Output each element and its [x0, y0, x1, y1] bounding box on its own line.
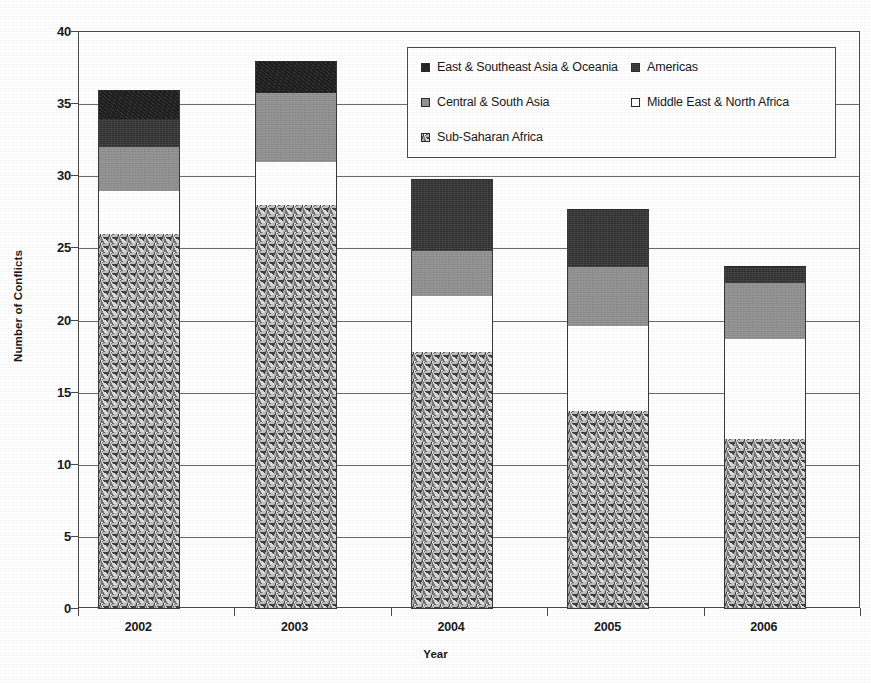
y-axis-tick-mark [71, 247, 78, 248]
y-axis-tick-label: 35 [37, 97, 71, 110]
bar-segment[interactable] [567, 209, 649, 267]
x-axis-tick-label: 2005 [562, 620, 652, 634]
y-axis: Number of Conflicts 0510152025303540 [0, 0, 71, 683]
bar-segment[interactable] [98, 191, 180, 234]
legend-item[interactable]: Middle East & North Africa [631, 95, 789, 109]
bar-segment[interactable] [411, 251, 493, 296]
legend-item-label: Americas [647, 60, 698, 74]
legend-item[interactable]: East & Southeast Asia & Oceania [421, 60, 618, 74]
y-axis-tick-mark [71, 175, 78, 176]
bar-segment[interactable] [567, 326, 649, 411]
legend-item-label: Middle East & North Africa [647, 95, 789, 109]
y-axis-tick-label: 25 [37, 241, 71, 254]
bar-stack[interactable] [98, 32, 180, 609]
bar-segment[interactable] [255, 205, 337, 609]
bar-segment[interactable] [411, 296, 493, 352]
legend-item-label: Central & South Asia [437, 95, 549, 109]
bar-segment[interactable] [567, 411, 649, 609]
x-axis-tick-label: 2003 [250, 620, 340, 634]
y-axis-tick-mark [71, 608, 78, 609]
bar-segment[interactable] [724, 283, 806, 339]
y-axis-tick-label: 10 [37, 457, 71, 470]
legend-swatch-icon [421, 63, 430, 72]
y-axis-tick-label: 30 [37, 169, 71, 182]
legend-item[interactable]: Central & South Asia [421, 95, 549, 109]
legend-item[interactable]: Sub-Saharan Africa [421, 130, 543, 144]
bar-segment[interactable] [98, 147, 180, 190]
y-axis-tick-mark [71, 464, 78, 465]
y-axis-tick-mark [71, 31, 78, 32]
y-axis-tick-label: 40 [37, 25, 71, 38]
legend-item-label: Sub-Saharan Africa [437, 130, 543, 144]
bar-segment[interactable] [411, 352, 493, 609]
legend-swatch-icon [631, 63, 640, 72]
x-axis-tick-label: 2004 [406, 620, 496, 634]
x-axis-tick-mark [234, 608, 235, 616]
y-axis-tick-mark [71, 392, 78, 393]
y-axis-title: Number of Conflicts [12, 226, 24, 386]
legend-swatch-icon [421, 133, 430, 142]
y-axis-tick-mark [71, 320, 78, 321]
stacked-bar-chart: Number of Conflicts 0510152025303540 200… [0, 0, 871, 683]
bar-segment[interactable] [724, 339, 806, 439]
bar-segment[interactable] [255, 93, 337, 162]
y-axis-tick-label: 0 [37, 602, 71, 615]
x-axis-tick-mark [704, 608, 705, 616]
x-axis-tick-mark [391, 608, 392, 616]
legend-swatch-icon [421, 98, 430, 107]
legend-item[interactable]: Americas [631, 60, 698, 74]
y-axis-tick-mark [71, 536, 78, 537]
x-axis-title: Year [0, 648, 871, 660]
bar-segment[interactable] [255, 162, 337, 205]
bar-segment[interactable] [567, 267, 649, 326]
x-axis-tick-label: 2006 [719, 620, 809, 634]
x-axis-tick-label: 2002 [93, 620, 183, 634]
figure-caption [56, 677, 756, 683]
bar-segment[interactable] [255, 61, 337, 93]
y-axis-tick-label: 15 [37, 385, 71, 398]
y-axis-tick-mark [71, 103, 78, 104]
bar-segment[interactable] [98, 90, 180, 119]
bar-segment[interactable] [411, 179, 493, 251]
x-axis-tick-mark [860, 608, 861, 616]
bar-segment[interactable] [98, 119, 180, 148]
bar-segment[interactable] [98, 234, 180, 609]
bar-stack[interactable] [255, 32, 337, 609]
x-axis-tick-mark [78, 608, 79, 616]
legend-item-label: East & Southeast Asia & Oceania [437, 60, 618, 74]
y-axis-tick-label: 20 [37, 313, 71, 326]
legend: East & Southeast Asia & OceaniaAmericasC… [407, 47, 836, 158]
y-axis-tick-label: 5 [37, 529, 71, 542]
bar-segment[interactable] [724, 439, 806, 609]
bar-segment[interactable] [724, 266, 806, 283]
x-axis-tick-mark [547, 608, 548, 616]
legend-swatch-icon [631, 98, 640, 107]
